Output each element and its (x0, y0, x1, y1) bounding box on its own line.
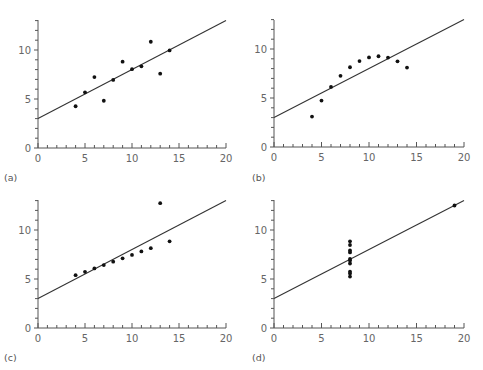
panel-label: (b) (252, 172, 265, 183)
data-point (102, 263, 106, 267)
x-tick-label: 10 (363, 152, 376, 163)
y-tick-label: 10 (254, 225, 267, 236)
scatter-panel-b: 051005101520(b) (252, 20, 470, 183)
x-tick-label: 20 (220, 333, 233, 344)
data-point (348, 249, 352, 253)
data-point (149, 40, 153, 44)
x-tick-label: 5 (82, 333, 88, 344)
data-point (130, 67, 134, 71)
x-tick-label: 10 (126, 333, 139, 344)
data-point (377, 54, 381, 58)
data-point (310, 115, 314, 119)
data-point (329, 85, 333, 89)
x-tick-label: 5 (82, 153, 88, 164)
anscombe-quartet-figure: 051005101520(a)051005101520(b)0510051015… (0, 0, 483, 370)
data-point (348, 65, 352, 69)
x-tick-label: 15 (410, 333, 423, 344)
y-tick-label: 5 (25, 274, 31, 285)
data-point (348, 272, 352, 276)
data-point (367, 56, 371, 60)
x-tick-label: 20 (220, 153, 233, 164)
data-point (396, 59, 400, 63)
data-point (102, 99, 106, 103)
x-tick-label: 0 (271, 152, 277, 163)
data-point (348, 243, 352, 247)
data-point (83, 90, 87, 94)
regression-line (38, 201, 226, 299)
data-point (93, 267, 97, 271)
data-point (168, 239, 172, 243)
regression-line (274, 20, 464, 118)
x-tick-label: 20 (458, 333, 471, 344)
y-tick-label: 0 (25, 323, 31, 334)
x-tick-label: 0 (35, 153, 41, 164)
x-tick-label: 10 (363, 333, 376, 344)
data-point (121, 60, 125, 64)
scatter-panel-a: 051005101520(a) (4, 20, 232, 183)
data-point (121, 256, 125, 260)
y-tick-label: 10 (254, 44, 267, 55)
data-point (93, 75, 97, 79)
x-tick-label: 5 (318, 152, 324, 163)
data-point (168, 48, 172, 52)
data-point (158, 201, 162, 205)
data-point (111, 78, 115, 82)
y-tick-label: 10 (18, 45, 31, 56)
x-tick-label: 10 (126, 153, 139, 164)
data-point (149, 246, 153, 250)
y-tick-label: 0 (25, 143, 31, 154)
x-tick-label: 5 (318, 333, 324, 344)
y-tick-label: 5 (25, 94, 31, 105)
data-point (130, 253, 134, 257)
data-point (358, 59, 362, 63)
data-point (339, 74, 343, 78)
y-tick-label: 10 (18, 225, 31, 236)
data-point (74, 104, 78, 108)
data-point (74, 273, 78, 277)
data-point (320, 99, 324, 103)
data-point (111, 260, 115, 264)
data-point (405, 66, 409, 70)
y-tick-label: 0 (261, 142, 267, 153)
panel-label: (c) (4, 352, 17, 363)
data-point (140, 64, 144, 68)
x-tick-label: 15 (410, 152, 423, 163)
x-tick-label: 0 (271, 333, 277, 344)
data-point (386, 56, 390, 60)
x-tick-label: 15 (173, 153, 186, 164)
data-point (348, 239, 352, 243)
data-point (348, 259, 352, 263)
y-tick-label: 5 (261, 93, 267, 104)
data-point (158, 72, 162, 76)
panel-label: (a) (4, 172, 17, 183)
x-tick-label: 20 (458, 152, 471, 163)
scatter-panel-d: 051005101520(d) (252, 200, 470, 363)
data-point (140, 250, 144, 254)
data-point (83, 270, 87, 274)
panel-label: (d) (252, 352, 265, 363)
scatter-panel-c: 051005101520(c) (4, 200, 232, 363)
regression-line (274, 201, 464, 299)
x-tick-label: 0 (35, 333, 41, 344)
data-point (453, 204, 457, 208)
y-tick-label: 5 (261, 274, 267, 285)
x-tick-label: 15 (173, 333, 186, 344)
y-tick-label: 0 (261, 323, 267, 334)
